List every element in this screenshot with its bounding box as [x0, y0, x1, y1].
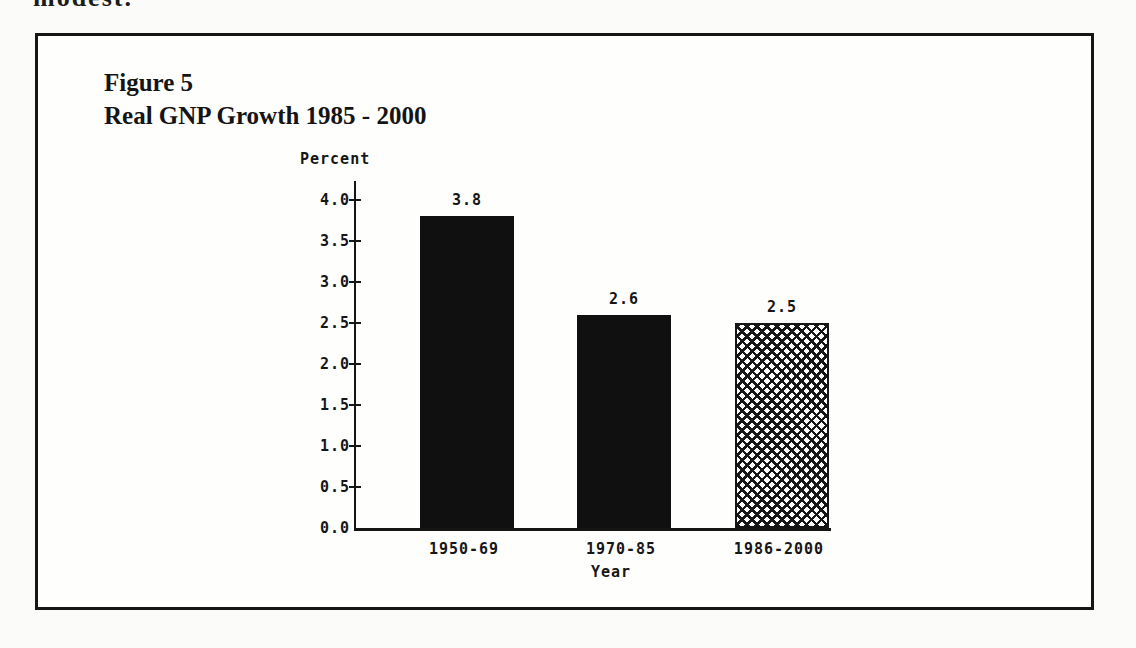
x-axis-category-label: 1970-85	[544, 540, 698, 558]
y-axis-tick-label: 1.5	[306, 396, 350, 414]
y-axis-tick	[349, 199, 361, 201]
bar-value-label: 2.5	[735, 298, 829, 316]
y-axis-tick-label: 1.0	[306, 437, 350, 455]
figure-box: Figure 5 Real GNP Growth 1985 - 2000 Per…	[35, 33, 1094, 610]
y-axis-tick	[349, 322, 361, 324]
y-axis-tick-label: 2.5	[306, 314, 350, 332]
body-text-fragment: modest.	[33, 0, 133, 13]
y-axis-tick-label: 0.0	[306, 519, 350, 537]
document-page: modest. Figure 5 Real GNP Growth 1985 - …	[0, 0, 1136, 648]
bar-value-label: 2.6	[577, 290, 671, 308]
y-axis-tick	[349, 445, 361, 447]
bar-1950-69	[420, 216, 514, 528]
y-axis-tick-label: 3.0	[306, 273, 350, 291]
y-axis-tick	[349, 363, 361, 365]
bar-value-label: 3.8	[420, 191, 514, 209]
y-axis-tick	[349, 240, 361, 242]
y-axis-tick-label: 3.5	[306, 232, 350, 250]
y-axis-line	[354, 181, 356, 531]
figure-title: Real GNP Growth 1985 - 2000	[104, 99, 426, 132]
y-axis-title: Percent	[300, 150, 370, 168]
y-axis-tick	[349, 486, 361, 488]
x-axis-category-label: 1950-69	[387, 540, 541, 558]
x-axis-title: Year	[571, 563, 651, 581]
figure-heading: Figure 5 Real GNP Growth 1985 - 2000	[104, 66, 426, 132]
y-axis-tick-label: 4.0	[306, 191, 350, 209]
y-axis-tick-label: 0.5	[306, 478, 350, 496]
y-axis-tick-label: 2.0	[306, 355, 350, 373]
y-axis-tick	[349, 281, 361, 283]
y-axis-tick	[349, 404, 361, 406]
x-axis-line	[354, 528, 831, 531]
bar-1986-2000	[735, 323, 829, 528]
figure-label: Figure 5	[104, 66, 426, 99]
bar-1970-85	[577, 315, 671, 528]
x-axis-category-label: 1986-2000	[702, 540, 856, 558]
